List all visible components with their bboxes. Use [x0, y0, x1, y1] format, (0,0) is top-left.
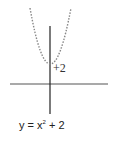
equation-rhs: + 2: [46, 119, 65, 131]
equation-caption: y = x2 + 2: [19, 119, 65, 131]
vertex-label: +2: [53, 61, 66, 76]
equation-lhs: y = x: [19, 119, 43, 131]
